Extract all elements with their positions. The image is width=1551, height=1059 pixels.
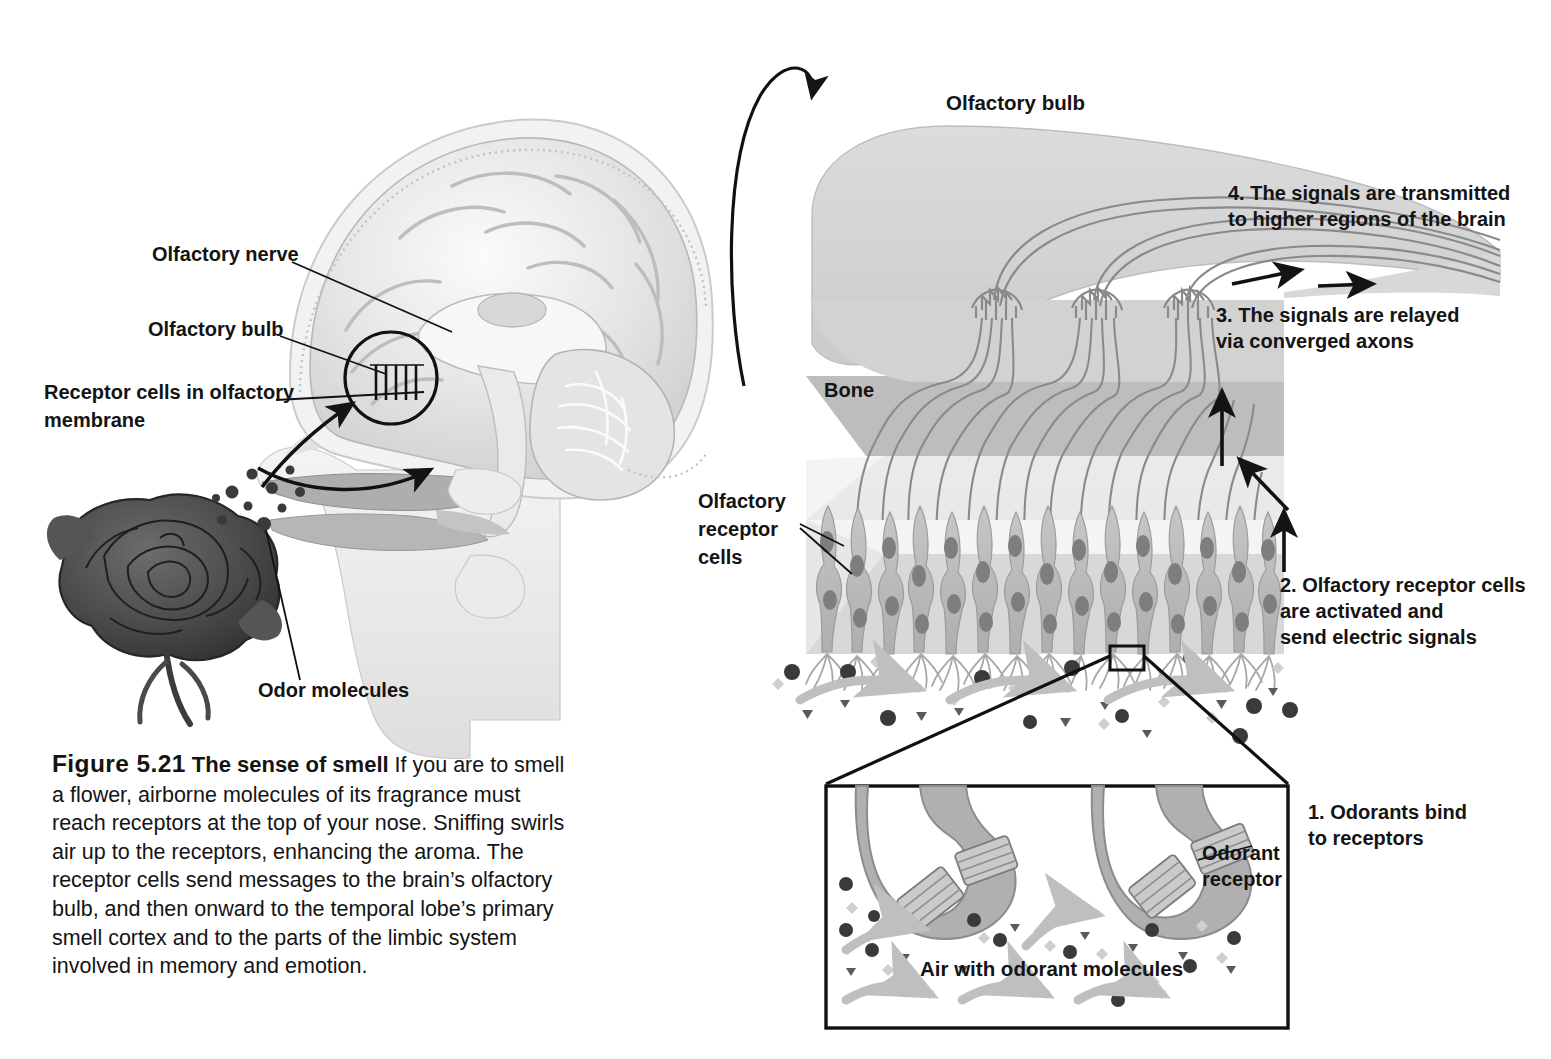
head-sagittal-illustration	[257, 120, 713, 759]
label-receptor-cells-membrane-line2: membrane	[44, 409, 145, 433]
step-2-line2: are activated and	[1280, 600, 1443, 624]
label-bone: Bone	[824, 379, 874, 403]
step-1-line1: 1. Odorants bind	[1308, 801, 1467, 825]
step-1-line2: to receptors	[1308, 827, 1424, 851]
figure-body: If you are to smell a flower, airborne m…	[52, 753, 564, 978]
figure-number: Figure 5.21	[52, 750, 186, 777]
label-odorant-receptor-line1: Odorant	[1202, 842, 1280, 866]
step-3-line1: 3. The signals are relayed	[1216, 304, 1459, 328]
label-odorant-receptor-line2: receptor	[1202, 868, 1282, 892]
label-olfactory-receptor-cells-line2: receptor	[698, 518, 778, 542]
label-air-with-odorant-molecules: Air with odorant molecules	[920, 957, 1183, 981]
label-olfactory-receptor-cells-line3: cells	[698, 546, 742, 570]
step-2-line1: 2. Olfactory receptor cells	[1280, 574, 1526, 598]
label-olfactory-bulb-title: Olfactory bulb	[946, 91, 1085, 115]
label-odor-molecules: Odor molecules	[258, 679, 409, 703]
label-olfactory-bulb-left: Olfactory bulb	[148, 318, 284, 342]
label-receptor-cells-membrane-line1: Receptor cells in olfactory	[44, 381, 294, 405]
bone-layer	[806, 376, 1284, 520]
figure-caption: Figure 5.21 The sense of smell If you ar…	[52, 748, 572, 981]
panel-connector-arrow	[731, 68, 812, 386]
step-4-line1: 4. The signals are transmitted	[1228, 182, 1510, 206]
step-3-line2: via converged axons	[1216, 330, 1414, 354]
label-olfactory-nerve: Olfactory nerve	[152, 243, 299, 267]
odorant-receptor-inset	[826, 786, 1288, 1028]
figure-canvas: Olfactory nerve Olfactory bulb Receptor …	[0, 0, 1551, 1059]
figure-title: The sense of smell	[192, 752, 389, 777]
airborne-odorant-molecules	[772, 651, 1298, 744]
rose-illustration	[47, 494, 282, 724]
step-2-line3: send electric signals	[1280, 626, 1477, 650]
label-olfactory-receptor-cells-line1: Olfactory	[698, 490, 786, 514]
step-4-line2: to higher regions of the brain	[1228, 208, 1506, 232]
